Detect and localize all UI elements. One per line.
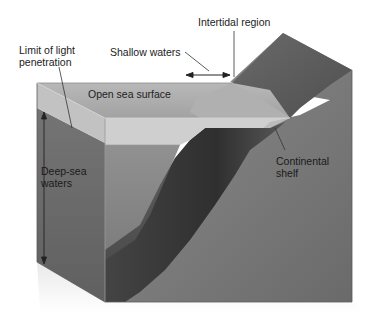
- deep-sea-label-line2: waters: [41, 177, 72, 189]
- continental-shelf-label-line1: Continental: [276, 155, 329, 167]
- shallow-waters-label: Shallow waters: [110, 46, 181, 58]
- shallow-leader: [185, 52, 209, 71]
- light-limit-label-line1: Limit of light: [19, 44, 75, 56]
- continental-shelf-label-line2: shelf: [276, 167, 298, 179]
- light-limit-label-line2: penetration: [19, 56, 72, 68]
- shallow-waters-arrow: [186, 73, 230, 78]
- deep-sea-label-line1: Deep-sea: [41, 165, 87, 177]
- intertidal-region-label: Intertidal region: [198, 16, 270, 28]
- open-sea-surface-label: Open sea surface: [88, 88, 171, 100]
